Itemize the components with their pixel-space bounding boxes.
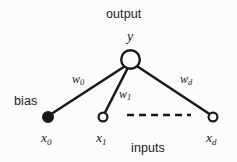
x1-subscript: 1 [102,137,107,147]
node-x1 [99,113,108,122]
node-xd [209,113,218,122]
diagram-canvas [0,0,237,162]
weight-wd-symbol: w [180,72,188,86]
xd-subscript: d [212,137,217,147]
node-label-x0: x0 [41,131,52,147]
weight-label-wd: wd [180,73,192,87]
x0-subscript: 0 [47,137,52,147]
weight-w0-symbol: w [72,72,80,86]
weight-label-w1: w1 [119,88,131,102]
output-caption: output [106,8,141,21]
weight-wd-subscript: d [188,77,192,87]
bias-caption: bias [14,95,37,108]
weight-w1-symbol: w [119,87,127,101]
node-x0-bias [43,112,53,122]
edge-x0-to-output [51,67,125,115]
node-output [121,50,140,69]
output-node-label: y [127,30,133,44]
weight-label-w0: w0 [72,73,84,87]
inputs-caption: inputs [131,142,165,155]
node-label-x1: x1 [96,131,107,147]
weight-w1-subscript: 1 [127,92,131,102]
weight-w0-subscript: 0 [80,77,84,87]
perceptron-diagram: output y bias w0 w1 wd x0 x1 xd inputs [0,0,237,162]
edge-xd-to-output [138,67,210,115]
node-label-xd: xd [206,131,217,147]
